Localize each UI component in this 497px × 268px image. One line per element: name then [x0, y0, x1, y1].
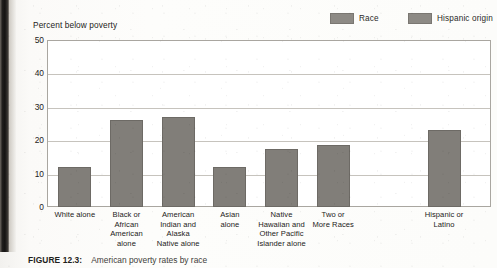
chart-legend: Race Hispanic origin [330, 12, 492, 25]
x-axis-label-asian-alone: Asianalone [201, 210, 259, 229]
legend-label-race: Race [359, 14, 379, 23]
figure-caption-number: FIGURE 12.3: [28, 255, 82, 265]
x-axis-category-labels: White aloneBlack orAfricanAmericanaloneA… [47, 210, 491, 252]
y-axis-tick-20: 20 [35, 135, 44, 145]
bar-asian-alone [213, 167, 246, 207]
bar-hispanic-or-latino [428, 130, 461, 207]
bar-white-alone [58, 167, 91, 207]
figure-caption-text: American poverty rates by race [91, 255, 207, 265]
bar-two-or-more-races [317, 145, 350, 207]
y-axis-tick-40: 40 [35, 68, 44, 78]
y-axis-tick-10: 10 [35, 169, 44, 179]
x-axis-label-hispanic-or-latino: Hispanic orLatino [407, 210, 481, 229]
x-axis-label-white-alone: White alone [46, 210, 104, 220]
y-axis-title: Percent below poverty [33, 20, 117, 30]
y-axis-tick-labels: 01020304050 [18, 34, 44, 214]
y-axis-tick-50: 50 [35, 35, 44, 45]
x-axis-label-black-or-african-american-alone: Black orAfricanAmericanalone [98, 210, 156, 248]
bar-native-hawaiian-and-other-pacific-islander-alone [265, 149, 298, 207]
y-axis-tick-30: 30 [35, 102, 44, 112]
poverty-rate-bar-chart: Race Hispanic origin Percent below pover… [0, 0, 497, 268]
figure-caption: FIGURE 12.3:American poverty rates by ra… [28, 255, 488, 265]
bars-container [47, 40, 491, 207]
x-axis-label-two-or-more-races: Two orMore Races [304, 210, 362, 229]
legend-swatch-icon [408, 13, 432, 24]
legend-item-hispanic-origin: Hispanic origin [408, 12, 493, 25]
bar-black-or-african-american-alone [110, 120, 143, 207]
legend-swatch-icon [330, 13, 354, 24]
x-axis-label-native-hawaiian-and-other-pacific-islander-alone: NativeHawaiian andOther PacificIslander … [253, 210, 311, 248]
legend-item-race: Race [330, 12, 379, 25]
x-axis-label-american-indian-and-alaska-native-alone: AmericanIndian andAlaskaNative alone [149, 210, 207, 248]
bar-american-indian-and-alaska-native-alone [162, 117, 195, 207]
legend-label-hispanic-origin: Hispanic origin [437, 14, 493, 23]
y-axis-tick-0: 0 [39, 202, 44, 212]
